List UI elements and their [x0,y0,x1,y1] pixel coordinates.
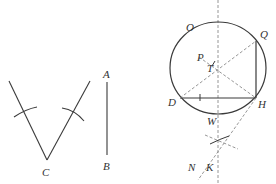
geometry-figure: C A B O Q P T D H W N K [0,0,276,184]
circle-construction [170,0,266,184]
label-d: D [167,96,176,108]
label-p: P [196,51,204,63]
label-b: B [103,160,110,172]
label-n: N [187,161,196,173]
label-c: C [42,166,50,178]
label-k: K [205,161,214,173]
label-w: W [207,115,217,127]
diagram-canvas: C A B O Q P T D H W N K [0,0,276,184]
label-a: A [102,68,110,80]
compass-arc-right [62,108,84,121]
label-t: T [207,62,214,74]
label-o: O [186,21,194,33]
angle-c [9,81,90,160]
label-h: H [257,98,267,110]
label-q: Q [260,28,268,40]
bisector-dashed [205,135,238,149]
